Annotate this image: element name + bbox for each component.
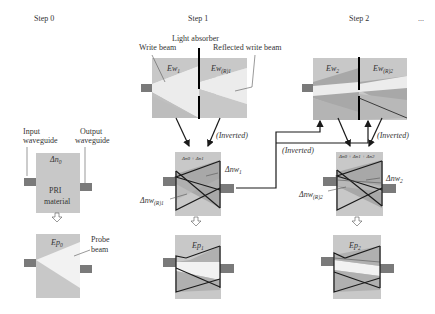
input-waveguide-label-1: Input xyxy=(23,127,41,136)
pri-label-2: material xyxy=(44,197,71,206)
diagram-canvas: Step 0 Step 1 Step 2 ... Input waveguide… xyxy=(0,0,435,314)
pri-label-1: PRI xyxy=(49,186,62,195)
reflected-write-beam-label: Reflected write beam xyxy=(213,43,282,52)
write-beam-label: Write beam xyxy=(139,43,177,52)
dnwr2-label: Δnw(R)2 xyxy=(298,190,323,201)
step1-index-label: Δn0 + Δn1 xyxy=(181,156,204,161)
probe-beam-label-1: Probe xyxy=(91,235,110,244)
step2-index-panel: Δn0 + Δn1 + Δn2 Δnw2 Δnw(R)2 xyxy=(298,152,403,216)
output-waveguide-label-1: Output xyxy=(80,127,103,136)
step0-probe-panel: Ep0 Probe beam xyxy=(24,234,110,298)
step1-probe-panel: Ep1 xyxy=(163,235,234,299)
down-arrow-icon xyxy=(52,213,62,222)
light-absorber-label: Light absorber xyxy=(172,34,219,43)
output-waveguide xyxy=(80,183,92,191)
input-waveguide xyxy=(24,178,36,186)
step0-material-panel: Input waveguide Output waveguide Δn0 PRI… xyxy=(23,127,110,213)
step0-heading: Step 0 xyxy=(34,14,54,23)
step2-probe-panel: Ep2 xyxy=(321,235,394,299)
down-arrow-icon xyxy=(352,217,362,226)
input-waveguide-label-2: waveguide xyxy=(23,136,58,145)
step2-write-panel: Ew2 Ew(R)2 xyxy=(302,57,407,120)
inverted-label-step1: (Inverted) xyxy=(216,131,248,140)
ellipsis: ... xyxy=(418,14,424,23)
step1-write-panel: Light absorber Write beam Reflected writ… xyxy=(139,34,282,119)
down-arrow-icon xyxy=(191,217,201,226)
dnw1-label: Δnw1 xyxy=(224,165,242,175)
inverted-label-step2-right: (Inverted) xyxy=(377,131,409,140)
output-waveguide-label-2: waveguide xyxy=(75,136,110,145)
dnwr1-label: Δnw(R)1 xyxy=(139,196,164,207)
step1-index-panel: Δn0 + Δn1 Δnw1 Δnw(R)1 xyxy=(139,152,242,216)
dnw2-label: Δnw2 xyxy=(385,174,403,184)
probe-beam-label-2: beam xyxy=(91,245,109,254)
step2-heading: Step 2 xyxy=(349,14,369,23)
step1-heading: Step 1 xyxy=(188,14,208,23)
step2-index-label: Δn0 + Δn1 + Δn2 xyxy=(338,154,375,159)
inverted-label-step2-left: (Inverted) xyxy=(282,146,314,155)
